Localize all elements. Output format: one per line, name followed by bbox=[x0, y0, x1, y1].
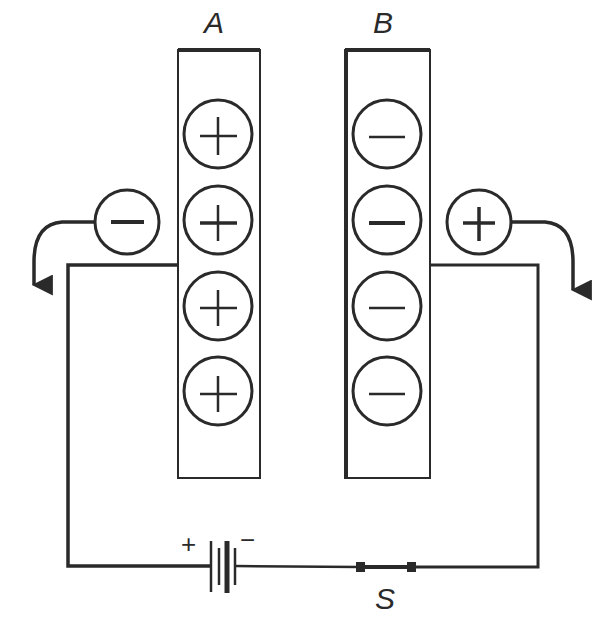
battery-negative-label: − bbox=[240, 525, 255, 555]
plate-b-charges bbox=[353, 100, 421, 425]
free-positive-charge bbox=[447, 190, 573, 290]
negative-charge-icon bbox=[353, 186, 421, 254]
positive-charge-icon bbox=[184, 100, 252, 168]
positive-charge-icon bbox=[184, 186, 252, 254]
plate-a-charges bbox=[184, 100, 252, 425]
plate-b-label: B bbox=[373, 6, 393, 39]
plate-a-label: A bbox=[202, 6, 224, 39]
positive-charge-icon bbox=[184, 357, 252, 425]
negative-charge-icon bbox=[353, 100, 421, 168]
positive-charge-icon bbox=[184, 272, 252, 340]
negative-charge-icon bbox=[353, 272, 421, 340]
switch-s: S bbox=[356, 562, 416, 615]
arrow-down-right-icon bbox=[511, 222, 573, 290]
circuit-wires bbox=[68, 265, 538, 567]
free-negative-charge bbox=[34, 190, 159, 285]
switch-label: S bbox=[375, 582, 395, 615]
battery-icon: + − bbox=[181, 525, 255, 593]
capacitor-circuit-diagram: A B bbox=[0, 0, 595, 628]
arrow-down-left-icon bbox=[34, 222, 95, 285]
battery-positive-label: + bbox=[181, 529, 196, 559]
negative-charge-icon bbox=[353, 357, 421, 425]
